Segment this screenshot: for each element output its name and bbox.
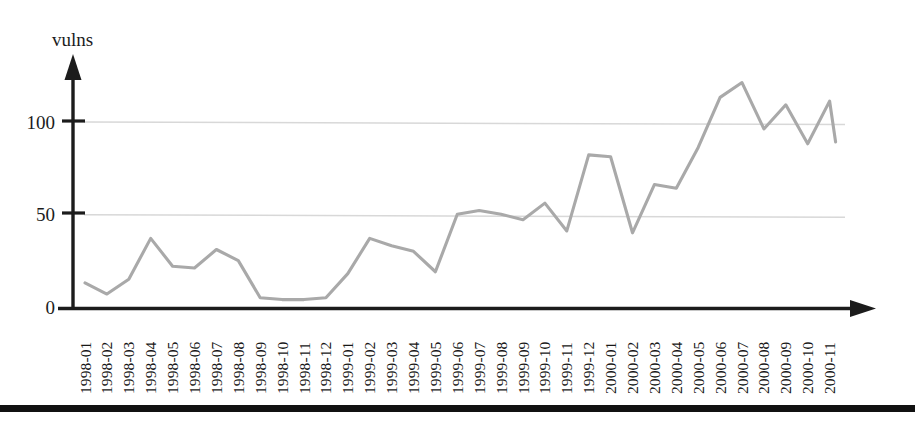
- x-tick-label-2000-10: 2000-10: [799, 341, 816, 394]
- x-tick-label-2000-01: 2000-01: [602, 342, 619, 394]
- x-tick-label-1998-02: 1998-02: [98, 342, 115, 394]
- x-tick-label-1999-10: 1999-10: [536, 341, 553, 394]
- x-tick-label-1998-01: 1998-01: [77, 342, 94, 394]
- gridline-50: [84, 215, 845, 218]
- x-tick-label-1998-11: 1998-11: [296, 342, 313, 394]
- x-tick-label-1999-02: 1999-02: [361, 342, 378, 394]
- series-line: [85, 83, 836, 300]
- vulnerability-line-chart: 050100 vulns 1998-011998-021998-031998-0…: [0, 0, 915, 424]
- x-tick-label-1998-03: 1998-03: [120, 341, 137, 394]
- x-tick-label-1999-08: 1999-08: [493, 341, 510, 394]
- x-tick-label-2000-02: 2000-02: [624, 342, 641, 394]
- x-tick-label-1999-01: 1999-01: [339, 342, 356, 394]
- x-tick-label-1998-06: 1998-06: [186, 341, 203, 394]
- x-tick-label-1999-05: 1999-05: [427, 341, 444, 394]
- x-tick-label-2000-03: 2000-03: [646, 341, 663, 394]
- x-tick-label-2000-07: 2000-07: [734, 341, 751, 394]
- x-tick-label-2000-09: 2000-09: [777, 341, 794, 394]
- x-tick-label-2000-06: 2000-06: [712, 341, 729, 394]
- y-axis-tick-labels: 050100: [27, 112, 56, 319]
- x-tick-label-1998-09: 1998-09: [252, 341, 269, 394]
- x-axis-arrow: [58, 300, 876, 317]
- x-tick-label-1999-06: 1999-06: [449, 341, 466, 394]
- y-tick-label-100: 100: [27, 112, 56, 133]
- data-series-vulns: [85, 83, 836, 300]
- x-tick-label-1998-07: 1998-07: [208, 341, 225, 394]
- gridlines: [84, 122, 845, 217]
- x-tick-label-1999-04: 1999-04: [405, 341, 422, 394]
- x-tick-label-1998-05: 1998-05: [164, 341, 181, 394]
- x-tick-label-1998-10: 1998-10: [274, 341, 291, 394]
- chart-svg: 050100 vulns 1998-011998-021998-031998-0…: [0, 0, 915, 424]
- x-tick-label-1999-03: 1999-03: [383, 341, 400, 394]
- x-tick-label-1998-04: 1998-04: [142, 341, 159, 394]
- x-tick-label-1999-09: 1999-09: [515, 341, 532, 394]
- x-tick-label-1999-11: 1999-11: [558, 342, 575, 394]
- gridline-100: [84, 122, 845, 125]
- x-tick-label-2000-08: 2000-08: [755, 341, 772, 394]
- y-tick-label-0: 0: [46, 297, 56, 318]
- x-tick-label-1999-12: 1999-12: [580, 342, 597, 394]
- x-tick-label-2000-04: 2000-04: [668, 341, 685, 394]
- y-axis-title: vulns: [52, 29, 93, 50]
- x-tick-label-2000-11: 2000-11: [821, 342, 838, 394]
- x-tick-label-1998-08: 1998-08: [230, 341, 247, 394]
- x-tick-label-1998-12: 1998-12: [317, 342, 334, 394]
- page-edge-rule: [0, 405, 915, 412]
- y-axis-arrow: [65, 54, 82, 307]
- x-tick-label-1999-07: 1999-07: [471, 341, 488, 394]
- x-tick-label-2000-05: 2000-05: [690, 341, 707, 394]
- x-axis-tick-labels: 1998-011998-021998-031998-041998-051998-…: [77, 341, 839, 394]
- y-tick-label-50: 50: [36, 204, 55, 225]
